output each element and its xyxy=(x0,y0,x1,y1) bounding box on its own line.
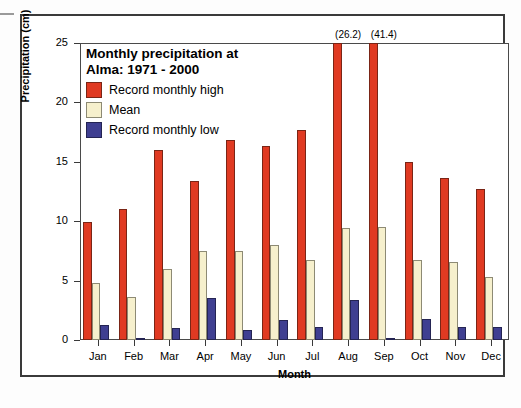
bar xyxy=(405,162,414,340)
bar xyxy=(163,269,172,340)
bar xyxy=(172,328,181,340)
x-tick-label: Dec xyxy=(471,350,511,362)
x-tick-mark xyxy=(277,340,278,346)
legend-and-title-block: Monthly precipitation at Alma: 1971 - 20… xyxy=(86,46,301,141)
bar xyxy=(422,319,431,340)
bar xyxy=(386,338,395,340)
bar xyxy=(270,245,279,340)
legend-swatch-icon xyxy=(86,102,102,118)
x-axis-title: Month xyxy=(80,368,509,380)
x-tick-label: Feb xyxy=(114,350,154,362)
x-tick-mark xyxy=(491,340,492,346)
bar xyxy=(297,130,306,340)
bar xyxy=(476,189,485,340)
bar xyxy=(342,228,351,340)
x-tick-label: Sep xyxy=(364,350,404,362)
x-tick-mark xyxy=(455,340,456,346)
legend-swatch-icon xyxy=(86,122,102,138)
x-tick-label: Aug xyxy=(328,350,368,362)
chart-title: Monthly precipitation at Alma: 1971 - 20… xyxy=(86,46,301,78)
bar xyxy=(315,327,324,340)
bar xyxy=(458,327,467,340)
bar xyxy=(449,262,458,340)
x-tick-label: Mar xyxy=(149,350,189,362)
x-tick-label: Jul xyxy=(292,350,332,362)
bar xyxy=(262,146,271,340)
x-tick-label: Nov xyxy=(435,350,475,362)
x-tick-label: Jan xyxy=(78,350,118,362)
bar xyxy=(279,320,288,340)
legend-label: Record monthly low xyxy=(109,123,219,137)
x-tick-mark xyxy=(134,340,135,346)
bar xyxy=(378,227,387,340)
legend-item: Record monthly low xyxy=(86,121,301,140)
bar xyxy=(92,283,101,340)
bar xyxy=(493,327,502,340)
bar xyxy=(190,181,199,340)
legend-label: Record monthly high xyxy=(109,83,224,97)
x-tick-mark xyxy=(312,340,313,346)
x-tick-mark xyxy=(241,340,242,346)
bar xyxy=(226,140,235,340)
y-tick-label: 25 xyxy=(42,36,68,48)
legend: Record monthly highMeanRecord monthly lo… xyxy=(86,81,301,140)
bar xyxy=(199,251,208,340)
y-tick-mark xyxy=(74,162,80,163)
x-tick-label: May xyxy=(221,350,261,362)
x-tick-mark xyxy=(98,340,99,346)
bar xyxy=(333,43,342,340)
legend-swatch-icon xyxy=(86,82,102,98)
y-tick-mark xyxy=(74,340,80,341)
bar xyxy=(136,338,145,340)
bar xyxy=(413,260,422,340)
bar xyxy=(369,43,378,340)
x-tick-mark xyxy=(169,340,170,346)
figure-frame: Precipitation (cm) 0510152025JanFebMarAp… xyxy=(20,14,505,377)
bar xyxy=(127,297,136,340)
scan-artifact-line xyxy=(0,13,14,15)
y-tick-label: 5 xyxy=(42,274,68,286)
x-tick-label: Jun xyxy=(257,350,297,362)
bar xyxy=(440,178,449,340)
bar xyxy=(207,298,216,340)
y-tick-label: 10 xyxy=(42,214,68,226)
y-tick-mark xyxy=(74,221,80,222)
bar xyxy=(119,209,128,340)
x-tick-mark xyxy=(205,340,206,346)
x-tick-mark xyxy=(420,340,421,346)
overflow-value-label: (41.4) xyxy=(354,29,414,40)
y-tick-label: 20 xyxy=(42,95,68,107)
y-tick-label: 15 xyxy=(42,155,68,167)
bar xyxy=(350,300,359,340)
x-tick-mark xyxy=(348,340,349,346)
legend-item: Mean xyxy=(86,101,301,120)
bar xyxy=(100,325,109,340)
bar xyxy=(235,251,244,340)
y-tick-label: 0 xyxy=(42,333,68,345)
x-tick-label: Apr xyxy=(185,350,225,362)
legend-item: Record monthly high xyxy=(86,81,301,100)
y-tick-mark xyxy=(74,281,80,282)
bar xyxy=(154,150,163,340)
bar xyxy=(485,277,494,340)
x-tick-mark xyxy=(384,340,385,346)
y-tick-mark xyxy=(74,102,80,103)
y-tick-mark xyxy=(74,43,80,44)
y-axis-title: Precipitation (cm) xyxy=(19,0,31,136)
legend-label: Mean xyxy=(109,103,140,117)
bar xyxy=(243,330,252,340)
bar xyxy=(306,260,315,340)
bar xyxy=(83,222,92,340)
x-tick-label: Oct xyxy=(400,350,440,362)
